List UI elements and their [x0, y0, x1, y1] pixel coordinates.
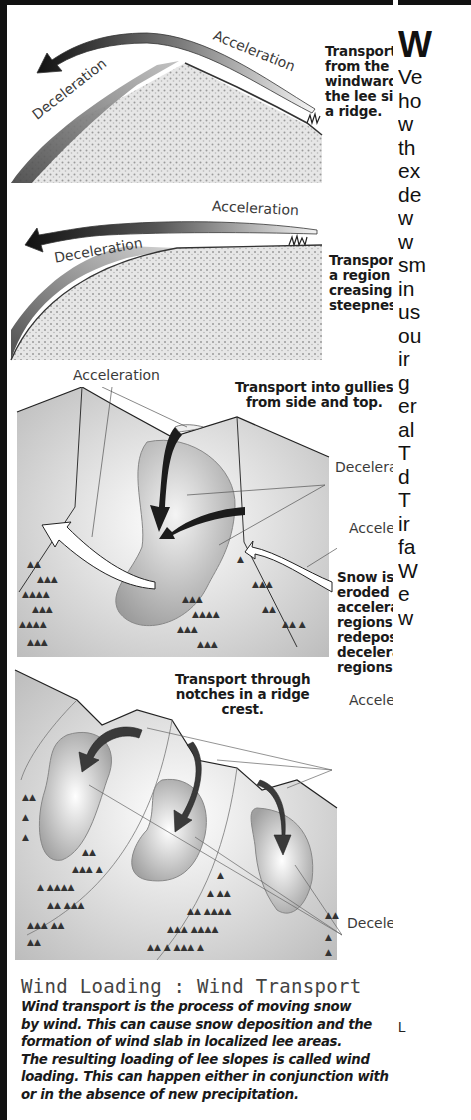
- svg-text:▲: ▲: [22, 832, 29, 842]
- svg-text:▲ ▲▲: ▲ ▲▲: [207, 888, 231, 898]
- svg-text:▲: ▲: [325, 932, 332, 942]
- body-line: Wind transport is the process of moving …: [21, 998, 393, 1016]
- caption-slope-steepness: Transport to a region of in- creasing sl…: [329, 253, 393, 313]
- section-title: Wind Loading : Wind Transport: [21, 975, 361, 997]
- svg-text:▲: ▲: [22, 812, 29, 822]
- caption-erosion-deposition: Snow is eroded from acceleration regions…: [337, 570, 393, 675]
- svg-text:▲▲▲: ▲▲▲: [27, 637, 48, 647]
- svg-text:▲▲▲: ▲▲▲: [37, 574, 58, 584]
- diagram-gullies: ▲▲▲▲▲▲▲▲▲ ▲▲▲▲▲▲▲▲▲▲ ▲▲▲▲▲▲▲▲▲▲ ▲▲▲▲▲▲▲▲…: [7, 387, 337, 657]
- diagram-slope-steepness: Acceleration Deceleration: [7, 190, 337, 375]
- svg-text:▲▲▲: ▲▲▲: [182, 594, 203, 604]
- body-line: The resulting loading of lee slopes is c…: [21, 1051, 393, 1069]
- svg-text:▲▲ ▲▲▲: ▲▲ ▲▲▲: [47, 900, 85, 910]
- svg-text:▲▲ ▲ ▲▲▲ ▲: ▲▲ ▲ ▲▲▲ ▲: [147, 942, 204, 952]
- svg-text:▲▲▲ ▲▲▲▲: ▲▲▲ ▲▲▲▲: [167, 924, 218, 934]
- diagram-ridge-transport: Acceleration Deceleration: [7, 5, 337, 190]
- gully-illustration: ▲▲▲▲▲▲▲▲▲ ▲▲▲▲▲▲▲▲▲▲ ▲▲▲▲▲▲▲▲▲▲ ▲▲▲▲▲▲▲▲…: [7, 387, 337, 657]
- caption-ridge-transport: Transport from the windward to the lee s…: [325, 44, 393, 119]
- body-line: formation of wind slab in localized lee …: [21, 1033, 393, 1051]
- svg-text:▲▲: ▲▲: [325, 910, 339, 920]
- acceleration-label: Acceleration: [349, 692, 393, 708]
- article-text: Ve ho w th ex de w w sm in us ou ir g er…: [398, 65, 426, 629]
- diagram-ridge-notches: ▲▲▲▲ ▲▲▲▲▲ ▲▲ ▲▲▲▲ ▲▲ ▲▲▲▲▲▲ ▲▲▲▲ ▲▲ ▲▲▲…: [7, 660, 342, 960]
- svg-text:▲▲: ▲▲: [27, 937, 41, 947]
- svg-text:▲▲: ▲▲: [27, 559, 41, 569]
- svg-text:▲▲▲: ▲▲▲: [252, 579, 273, 589]
- svg-text:▲▲: ▲▲: [262, 604, 276, 614]
- svg-text:▲: ▲: [325, 947, 332, 957]
- svg-text:▲▲▲: ▲▲▲: [197, 639, 218, 649]
- acceleration-label-right: Acceleration: [349, 520, 393, 536]
- body-line: by wind. This can cause snow deposition …: [21, 1016, 393, 1034]
- illustration-panel: Acceleration Deceleration Transport from…: [0, 0, 393, 1120]
- deceleration-label: Deceleration: [347, 915, 393, 931]
- deceleration-label: Deceleration: [335, 459, 393, 475]
- body-line: or in the absence of new precipitation.: [21, 1086, 393, 1104]
- svg-text:▲▲▲▲: ▲▲▲▲: [19, 619, 47, 629]
- footer-fragment: L: [398, 1019, 406, 1035]
- svg-text:▲: ▲: [237, 554, 244, 564]
- body-line: loading. This can happen either in conju…: [21, 1068, 393, 1086]
- svg-text:▲▲ ▲: ▲▲ ▲: [282, 619, 306, 629]
- svg-text:▲: ▲: [217, 870, 224, 880]
- svg-text:▲▲▲: ▲▲▲: [177, 624, 198, 634]
- svg-text:▲▲▲ ▲: ▲▲▲ ▲: [72, 864, 103, 874]
- svg-text:▲▲: ▲▲: [82, 847, 96, 857]
- svg-text:▲▲▲▲: ▲▲▲▲: [192, 609, 220, 619]
- svg-text:▲▲ ▲▲▲▲: ▲▲ ▲▲▲▲: [187, 906, 231, 916]
- svg-text:▲ ▲▲▲▲: ▲ ▲▲▲▲: [37, 882, 75, 892]
- notches-illustration: ▲▲▲▲ ▲▲▲▲▲ ▲▲ ▲▲▲▲ ▲▲ ▲▲▲▲▲▲ ▲▲▲▲ ▲▲ ▲▲▲…: [7, 660, 342, 960]
- svg-text:▲▲: ▲▲: [22, 792, 36, 802]
- article-heading: W: [398, 27, 432, 63]
- svg-text:▲▲▲▲: ▲▲▲▲: [22, 589, 50, 599]
- article-column: W Ve ho w th ex de w w sm in us ou ir g …: [398, 0, 471, 1120]
- section-body: Wind transport is the process of moving …: [21, 998, 393, 1104]
- acceleration-label-top: Acceleration: [73, 367, 160, 383]
- svg-text:▲▲▲: ▲▲▲: [32, 604, 53, 614]
- svg-text:▲▲▲ ▲▲: ▲▲▲ ▲▲: [27, 920, 65, 930]
